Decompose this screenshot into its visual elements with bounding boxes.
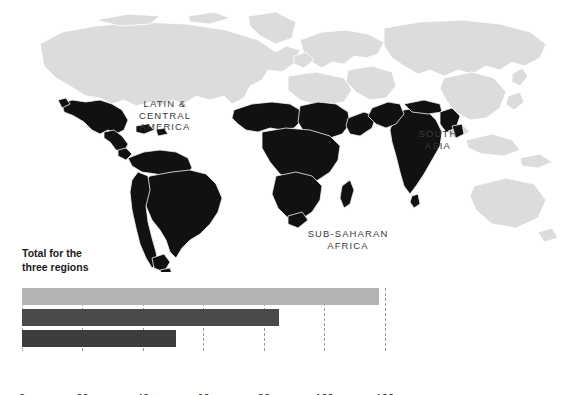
map-label-south-asia: SOUTH ASIA bbox=[400, 128, 476, 151]
bar-chart: Total for the three regions 020406080100… bbox=[0, 245, 575, 395]
map-label-latin-central-america: LATIN & CENTRAL AMERICA bbox=[120, 98, 210, 133]
plot-area: 020406080100120 Number of migrants (mill… bbox=[22, 288, 394, 347]
bar[interactable] bbox=[22, 288, 379, 305]
bar[interactable] bbox=[22, 309, 279, 326]
chart-title: Total for the three regions bbox=[22, 247, 89, 274]
migration-figure: LATIN & CENTRAL AMERICA SUB-SAHARAN AFRI… bbox=[0, 0, 575, 395]
bar[interactable] bbox=[22, 330, 176, 347]
bar-series bbox=[22, 288, 394, 347]
world-map-svg bbox=[0, 0, 575, 272]
world-map: LATIN & CENTRAL AMERICA SUB-SAHARAN AFRI… bbox=[0, 0, 575, 272]
